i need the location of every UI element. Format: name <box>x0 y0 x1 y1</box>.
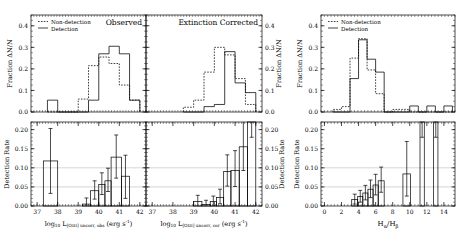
ytick-label-left-top: 0.2 <box>18 65 28 72</box>
ytick-label-left-top: 0.3 <box>18 44 28 51</box>
xtick-label-left: 37 <box>33 208 41 215</box>
xtick-label-middle: 37 <box>148 208 156 215</box>
ytick-label-middle-bottom: 0.15 <box>265 145 279 152</box>
ytick-label-right-bottom: 0.10 <box>305 164 319 171</box>
ytick-label-left-bottom: 0.10 <box>15 164 29 171</box>
xtick-label-left: 38 <box>54 208 62 215</box>
ytick-label-left-top: 0.4 <box>18 22 28 29</box>
ylabel-right-top: Fraction ΔN/N <box>296 39 304 88</box>
legend-detection-label: Detection <box>341 26 368 32</box>
xtick-label-right: 2 <box>340 208 344 215</box>
ytick-label-middle-bottom: 0.10 <box>265 164 279 171</box>
xtick-label-right: 6 <box>374 208 378 215</box>
panel-title-middle: Extinction Corrected <box>178 18 258 27</box>
xtick-label-middle: 40 <box>211 208 219 215</box>
panel-title-left: Observed <box>106 18 142 27</box>
ytick-label-right-bottom: 0.05 <box>305 183 319 190</box>
xtick-label-middle: 41 <box>231 208 239 215</box>
legend-detection-label: Detection <box>51 26 78 32</box>
xtick-label-middle: 39 <box>190 208 198 215</box>
ytick-label-middle-top: 0.0 <box>265 108 275 115</box>
legend-nondetection-label: Non-detection <box>51 19 91 25</box>
ytick-label-right-top: 0.3 <box>308 44 318 51</box>
figure-svg: 0.00.10.20.30.4Fraction ΔN/NObservedNon-… <box>0 0 463 234</box>
ytick-label-left-top: 0.1 <box>18 87 28 94</box>
xtick-label-right: 0 <box>322 208 326 215</box>
ytick-label-middle-top: 0.4 <box>265 22 275 29</box>
xtick-label-right: 4 <box>357 208 361 215</box>
ytick-label-middle-bottom: 0.05 <box>265 183 279 190</box>
xtick-label-left: 39 <box>74 208 82 215</box>
xtick-label-right: 10 <box>406 208 414 215</box>
xtick-label-right: 8 <box>391 208 395 215</box>
ytick-label-left-bottom: 0.05 <box>15 183 29 190</box>
legend-nondetection-label: Non-detection <box>341 19 381 25</box>
ytick-label-middle-top: 0.3 <box>265 44 275 51</box>
figure-background <box>0 0 463 234</box>
ytick-label-middle-top: 0.1 <box>265 87 275 94</box>
ytick-label-right-top: 0.2 <box>308 65 318 72</box>
ytick-label-left-top: 0.0 <box>18 108 28 115</box>
ylabel-right-bottom: Detection Rate <box>293 139 301 189</box>
ytick-label-middle-bottom: 0.00 <box>265 202 279 209</box>
ytick-label-left-bottom: 0.20 <box>15 126 29 133</box>
ylabel-left-bottom: Detection Rate <box>3 139 11 189</box>
ytick-label-right-bottom: 0.20 <box>305 126 319 133</box>
xtick-label-right: 14 <box>440 208 448 215</box>
ytick-label-left-bottom: 0.00 <box>15 202 29 209</box>
xtick-label-left: 42 <box>136 208 144 215</box>
xtick-label-middle: 42 <box>252 208 260 215</box>
xtick-label-left: 40 <box>95 208 103 215</box>
ytick-label-right-bottom: 0.00 <box>305 202 319 209</box>
ytick-label-right-top: 0.0 <box>308 108 318 115</box>
xtick-label-middle: 38 <box>169 208 177 215</box>
ylabel-left-top: Fraction ΔN/N <box>6 39 14 88</box>
ylabel-middle-bottom: Detection Rate <box>278 139 286 189</box>
ytick-label-right-top: 0.1 <box>308 87 318 94</box>
ytick-label-right-top: 0.4 <box>308 22 318 29</box>
xtick-label-right: 12 <box>423 208 431 215</box>
ytick-label-middle-top: 0.2 <box>265 65 275 72</box>
xtick-label-left: 41 <box>115 208 123 215</box>
ytick-label-right-bottom: 0.15 <box>305 145 319 152</box>
figure-root: 0.00.10.20.30.4Fraction ΔN/NObservedNon-… <box>0 0 463 234</box>
ytick-label-middle-bottom: 0.20 <box>265 126 279 133</box>
ylabel-middle-top: Fraction ΔN/N <box>275 39 283 88</box>
ytick-label-left-bottom: 0.15 <box>15 145 29 152</box>
